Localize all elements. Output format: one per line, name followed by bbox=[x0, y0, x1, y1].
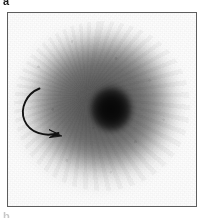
image-frame bbox=[7, 12, 197, 207]
panel-label-b: b bbox=[3, 211, 10, 218]
curved-arrow-icon bbox=[8, 13, 197, 207]
panel-label-a: a bbox=[3, 0, 9, 7]
figure-panel: a b bbox=[0, 0, 207, 218]
